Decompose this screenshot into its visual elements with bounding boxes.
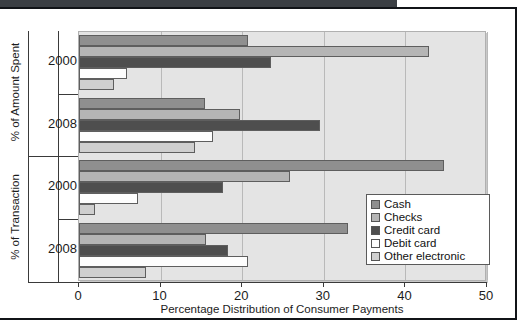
x-tick-label-10: 10 [140,288,180,303]
bar-credit-card-oftransaction-2008 [79,245,228,256]
legend-swatch-icon [371,200,380,209]
y-group-label-3: 2008 [28,241,77,256]
x-tick-label-0: 0 [58,288,98,303]
bar-checks-oftransaction-2000 [79,171,290,182]
legend-item-checks[interactable]: Checks [371,211,489,224]
x-tick-label-50: 50 [466,288,506,303]
legend-swatch-icon [371,213,380,222]
legend-label: Credit card [384,224,440,237]
legend-item-cash[interactable]: Cash [371,198,489,211]
x-tick-label-30: 30 [303,288,343,303]
x-tick-label-40: 40 [384,288,424,303]
bar-credit-card-oftransaction-2000 [79,182,223,193]
bar-other-electronic-ofamountspent-2000 [79,79,114,90]
bar-cash-oftransaction-2008 [79,223,348,234]
legend-label: Debit card [384,237,436,250]
gridline-20 [242,32,243,280]
bar-checks-ofamountspent-2000 [79,46,429,57]
bar-debit-card-ofamountspent-2000 [79,68,127,79]
bar-chart: 01020304050 2000200820002008 % of Amount… [0,9,513,314]
y-group-label-0: 2000 [28,53,77,68]
legend-swatch-icon [371,226,380,235]
x-tick-30 [323,282,324,287]
x-tick-0 [78,282,79,287]
legend-swatch-icon [371,252,380,261]
y-group-label-2: 2000 [28,178,77,193]
legend-item-credit-card[interactable]: Credit card [371,224,489,237]
legend-item-other-electronic[interactable]: Other electronic [371,250,489,263]
chart-legend[interactable]: CashChecksCredit cardDebit cardOther ele… [366,194,490,265]
legend-item-debit-card[interactable]: Debit card [371,237,489,250]
x-tick-40 [404,282,405,287]
top-dark-band [0,0,397,7]
bar-debit-card-ofamountspent-2008 [79,131,213,142]
bar-checks-oftransaction-2008 [79,234,206,245]
gridline-30 [324,32,325,280]
x-axis-line [28,282,486,283]
group-separator-2 [28,156,78,157]
y-group-label-1: 2008 [28,116,77,131]
bar-cash-oftransaction-2000 [79,160,444,171]
legend-label: Checks [384,211,422,224]
x-tick-50 [486,282,487,287]
bar-credit-card-ofamountspent-2008 [79,120,320,131]
bar-debit-card-oftransaction-2008 [79,256,248,267]
legend-label: Cash [384,198,411,211]
bar-other-electronic-oftransaction-2008 [79,267,146,278]
bar-checks-ofamountspent-2008 [79,109,240,120]
x-tick-10 [160,282,161,287]
bar-credit-card-ofamountspent-2000 [79,57,271,68]
bar-cash-ofamountspent-2000 [79,35,248,46]
panel-label-1: % of Transaction [9,152,21,282]
x-tick-label-20: 20 [221,288,261,303]
page-container: 01020304050 2000200820002008 % of Amount… [0,0,526,328]
panel-label-0: % of Amount Spent [9,27,21,157]
x-tick-20 [241,282,242,287]
bar-debit-card-oftransaction-2000 [79,193,138,204]
legend-label: Other electronic [384,250,465,263]
bar-cash-ofamountspent-2008 [79,98,205,109]
group-separator-3 [58,219,78,220]
x-axis-label: Percentage Distribution of Consumer Paym… [78,303,486,315]
bar-other-electronic-oftransaction-2000 [79,204,95,215]
group-separator-1 [58,94,78,95]
legend-swatch-icon [371,239,380,248]
bar-other-electronic-ofamountspent-2008 [79,142,195,153]
